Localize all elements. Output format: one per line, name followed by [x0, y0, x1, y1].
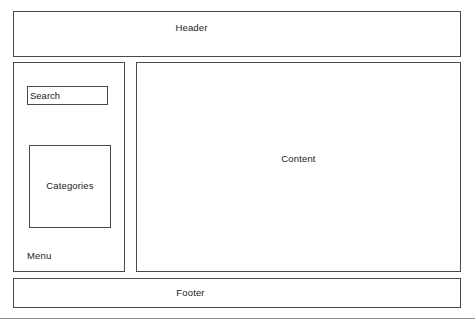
footer-label: Footer: [14, 287, 367, 299]
sidebar-region: Categories Menu: [13, 62, 125, 272]
bottom-divider: [0, 318, 475, 319]
categories-panel[interactable]: Categories: [29, 145, 111, 228]
header-label: Header: [14, 22, 369, 34]
search-input[interactable]: [27, 86, 108, 105]
categories-label: Categories: [30, 180, 110, 192]
header-region: Header: [13, 11, 461, 57]
menu-label: Menu: [27, 250, 51, 262]
content-label: Content: [137, 153, 460, 165]
footer-region: Footer: [13, 278, 461, 308]
content-region: Content: [136, 62, 461, 272]
